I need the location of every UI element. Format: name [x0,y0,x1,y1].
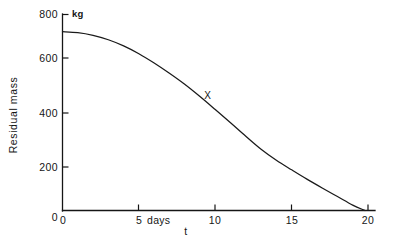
x-axis-days-unit: days [147,214,170,226]
x-tick-label-0: 0 [60,214,66,226]
y-tick-label-200: 200 [39,161,58,173]
y-tick-label-400: 400 [39,107,58,119]
y-ticks-group [63,58,69,167]
y-axis-unit-label: kg [72,8,84,19]
x-tick-label-15: 15 [286,214,298,226]
x-axis-title: t [184,225,188,237]
x-ticks-group [139,205,369,211]
y-tick-label-800: 800 [39,8,58,20]
x-tick-label-5: 5 [136,214,142,226]
y-tick-label-600: 600 [39,52,58,64]
y-tick-label-0: 0 [52,211,58,223]
chart-figure: 800 600 400 200 0 kg Residual mass 0 5 1… [0,0,393,240]
x-tick-label-20: 20 [362,214,374,226]
y-tick-labels-group: 800 600 400 200 0 [39,8,58,223]
y-axis-title: Residual mass [7,77,19,154]
residual-mass-line-chart: 800 600 400 200 0 kg Residual mass 0 5 1… [0,0,393,240]
x-tick-label-10: 10 [209,214,221,226]
data-curve-residual-mass [63,32,365,211]
curve-annotation-x: X [204,90,211,101]
x-tick-labels-group: 0 5 10 15 20 [60,214,374,226]
